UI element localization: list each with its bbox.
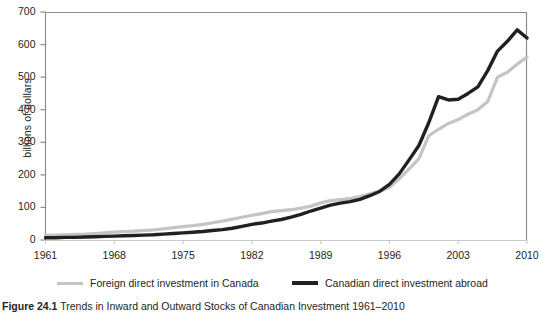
legend-swatch-black-line-icon	[292, 281, 318, 285]
figure-caption-text: Trends in Inward and Outward Stocks of C…	[60, 300, 405, 312]
line-chart-svg	[0, 0, 532, 268]
figure-caption-label: Figure 24.1	[2, 300, 57, 312]
legend-item-foreign-direct-investment-in-canada: Foreign direct investment in Canada	[57, 277, 259, 289]
legend-label-canadian-direct-investment-abroad: Canadian direct investment abroad	[325, 277, 488, 289]
legend-item-canadian-direct-investment-abroad: Canadian direct investment abroad	[292, 277, 488, 289]
chart-axes	[46, 12, 528, 241]
figure-caption: Figure 24.1 Trends in Inward and Outward…	[2, 300, 530, 312]
legend-swatch-gray-line-icon	[57, 282, 83, 285]
chart-legend: Foreign direct investment in Canada Cana…	[0, 276, 532, 296]
chart-plot-area: billions of dollars 01002003004005006007…	[0, 0, 532, 268]
legend-label-foreign-direct-investment-in-canada: Foreign direct investment in Canada	[90, 277, 259, 289]
series-line-foreign-direct-investment-in-canada	[46, 57, 528, 235]
chart-series-group	[46, 30, 528, 238]
series-line-canadian-direct-investment-abroad	[46, 30, 528, 238]
y-axis-tick-marks	[41, 12, 46, 240]
